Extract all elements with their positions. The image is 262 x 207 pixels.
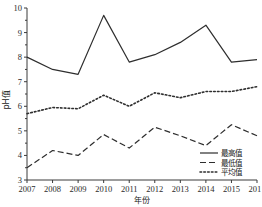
legend-label: 平均值 <box>221 167 243 177</box>
x-tick-label: 2013 <box>172 184 189 194</box>
y-tick-label: 6 <box>18 101 22 111</box>
x-tick-label: 2015 <box>223 184 240 194</box>
x-axis-title: 年份 <box>134 195 150 205</box>
legend-label: 最高值 <box>221 148 243 158</box>
x-tick-label: 2016 <box>249 184 262 194</box>
y-axis-tick-labels: 345678910 <box>14 3 23 185</box>
x-tick-label: 2014 <box>197 184 215 194</box>
y-tick-label: 8 <box>18 52 22 62</box>
y-axis-title: pH值 <box>1 90 11 109</box>
x-tick-label: 2011 <box>121 184 138 194</box>
y-tick-label: 4 <box>18 150 23 160</box>
data-series-group <box>27 15 257 167</box>
y-tick-label: 7 <box>18 77 22 87</box>
y-tick-label: 5 <box>18 126 22 136</box>
y-tick-label: 10 <box>14 3 23 13</box>
x-tick-label: 2009 <box>70 184 87 194</box>
x-tick-label: 2007 <box>19 184 36 194</box>
chart-canvas: 345678910 200720082009201020112012201320… <box>0 0 261 207</box>
x-tick-label: 2008 <box>44 184 61 194</box>
x-axis-tick-labels: 2007200820092010201120122013201420152016 <box>19 184 262 194</box>
series-line-dotted <box>27 87 257 114</box>
x-tick-label: 2010 <box>95 184 112 194</box>
y-tick-label: 9 <box>18 28 22 38</box>
ph-line-chart: 345678910 200720082009201020112012201320… <box>0 0 261 207</box>
series-line-solid <box>27 15 257 74</box>
legend-label: 最低值 <box>221 158 243 168</box>
chart-legend: 最高值最低值平均值 <box>200 148 243 177</box>
x-tick-label: 2012 <box>146 184 163 194</box>
